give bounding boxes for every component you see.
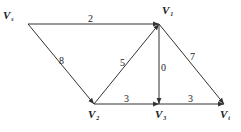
edge-weight-label: 5 (120, 57, 125, 68)
edges-group (28, 24, 224, 104)
graph-canvas: 2850733 VsV1V2V3Vt (0, 0, 241, 132)
node-label-vs: Vs (3, 9, 14, 22)
edge-weight-label: 3 (124, 93, 129, 104)
node-label-v3: V3 (155, 108, 166, 121)
edge-weight-label: 8 (59, 55, 64, 66)
node-label-v2: V2 (88, 108, 99, 121)
edge-v2-v1 (94, 24, 159, 104)
edge-weight-label: 2 (88, 13, 93, 24)
edge-weight-label: 0 (161, 62, 166, 73)
edge-labels-group: 2850733 (59, 13, 195, 104)
edge-weight-label: 3 (188, 93, 193, 104)
edge-v1-vt (159, 24, 224, 104)
node-label-vt: Vt (220, 108, 230, 121)
node-label-v1: V1 (162, 4, 173, 17)
edge-weight-label: 7 (190, 51, 195, 62)
node-labels-group: VsV1V2V3Vt (3, 4, 230, 121)
